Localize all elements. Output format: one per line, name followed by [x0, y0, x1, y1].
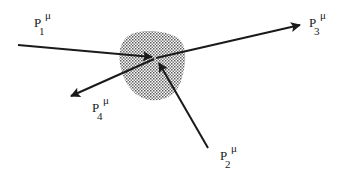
label-p1-superscript: μ	[45, 10, 51, 21]
label-p2-superscript: μ	[231, 143, 237, 154]
label-p4-superscript: μ	[103, 95, 109, 106]
scattering-diagram	[0, 0, 342, 175]
label-p4: P μ 4	[92, 101, 99, 114]
label-p1-subscript: 1	[39, 26, 45, 37]
label-p3-superscript: μ	[320, 10, 326, 21]
label-p4-subscript: 4	[97, 111, 103, 122]
label-p3-subscript: 3	[314, 26, 320, 37]
label-p2: P μ 2	[220, 149, 227, 162]
label-p1: P μ 1	[34, 16, 41, 29]
label-p2-subscript: 2	[225, 159, 231, 170]
label-p3: P μ 3	[309, 16, 316, 29]
momentum-line-p2	[159, 63, 208, 148]
